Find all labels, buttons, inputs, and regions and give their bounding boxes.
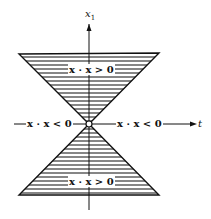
origin-point: [86, 121, 92, 127]
vertical-axis-label: x1: [84, 8, 96, 24]
region-left-label: x · x < 0: [26, 118, 73, 129]
region-right-label: x · x < 0: [116, 118, 163, 129]
region-bottom-label: x · x > 0: [68, 176, 115, 187]
axis-subscript: 1: [91, 14, 95, 22]
horizontal-axis-label: t: [197, 118, 203, 129]
vertical-arrow-icon: [87, 24, 92, 31]
horizontal-arrow-icon: [190, 122, 197, 127]
region-top-label: x · x > 0: [68, 64, 115, 75]
